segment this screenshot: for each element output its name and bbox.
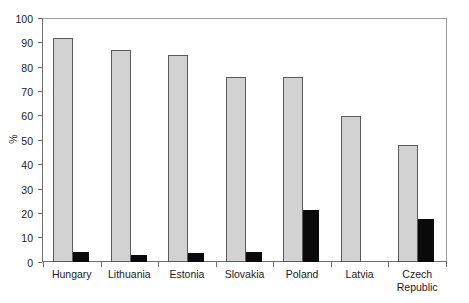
bar-group	[388, 18, 446, 262]
bar-dark	[246, 252, 262, 262]
y-axis-tick: 70	[21, 85, 42, 97]
x-axis-labels: HungaryLithuaniaEstoniaSlovakiaPolandLat…	[0, 268, 469, 303]
x-axis-tick-mark	[43, 262, 44, 267]
bar-dark	[418, 219, 434, 262]
x-axis-tick-mark	[158, 262, 159, 267]
x-axis-tick-mark	[388, 262, 389, 267]
y-axis-tick-label: 10	[21, 232, 38, 244]
y-axis-tick: 100	[15, 12, 42, 24]
y-axis-tick-label: 20	[21, 208, 38, 220]
bar-light	[283, 77, 303, 262]
x-axis-tick-mark	[331, 262, 332, 267]
y-axis: 1009080706050403020100	[0, 0, 42, 303]
x-axis-tick-mark	[101, 262, 102, 267]
y-axis-tick-label: 80	[21, 62, 38, 74]
bar-dark	[73, 252, 89, 262]
x-axis-tick-mark	[216, 262, 217, 267]
y-axis-tick-label: 70	[21, 86, 38, 98]
bar-group	[273, 18, 331, 262]
bar-light	[111, 50, 131, 262]
bar-light	[398, 145, 418, 262]
x-axis-category-label-line: Republic	[382, 281, 452, 294]
bar-group	[158, 18, 216, 262]
y-axis-tick: 40	[21, 158, 42, 170]
y-axis-tick-label: 100	[15, 13, 38, 25]
y-axis-tick: 90	[21, 36, 42, 48]
x-axis-tick-mark	[273, 262, 274, 267]
y-axis-title: %	[7, 134, 19, 143]
bar-group	[43, 18, 101, 262]
bar-light	[341, 116, 361, 262]
bar-dark	[188, 253, 204, 262]
bar-dark	[131, 255, 147, 262]
bar-group	[216, 18, 274, 262]
bar-light	[53, 38, 73, 262]
y-axis-tick-label: 90	[21, 37, 38, 49]
bar-light	[226, 77, 246, 262]
bar-group	[331, 18, 389, 262]
y-axis-tick: 50	[21, 134, 42, 146]
x-axis-category-label-line: Czech	[382, 268, 452, 281]
bars-layer	[43, 18, 446, 262]
y-axis-tick-label: 60	[21, 110, 38, 122]
y-axis-tick-label: 40	[21, 159, 38, 171]
y-axis-tick: 60	[21, 110, 42, 122]
y-axis-tick: 10	[21, 232, 42, 244]
bar-light	[168, 55, 188, 262]
x-axis-category-label: CzechRepublic	[382, 268, 452, 294]
x-axis-tick-mark	[446, 262, 447, 267]
y-axis-tick: 80	[21, 61, 42, 73]
bar-group	[101, 18, 159, 262]
y-axis-tick-label: 50	[21, 135, 38, 147]
bar-chart: 1009080706050403020100 % HungaryLithuani…	[0, 0, 469, 303]
y-axis-tick: 20	[21, 207, 42, 219]
y-axis-tick-label: 30	[21, 184, 38, 196]
bar-dark	[303, 210, 319, 262]
y-axis-tick: 30	[21, 183, 42, 195]
